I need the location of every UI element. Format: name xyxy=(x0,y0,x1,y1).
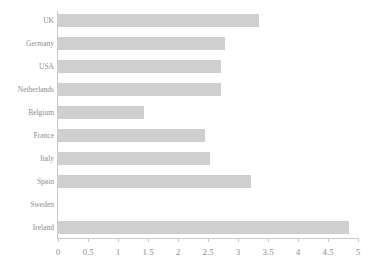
x-axis-tick-mark xyxy=(148,238,149,242)
x-axis-tick-label: 4 xyxy=(286,246,310,258)
bar xyxy=(58,14,259,27)
x-axis-tick-mark xyxy=(298,238,299,242)
x-axis-tick-mark xyxy=(268,238,269,242)
x-axis-tick-label: 1 xyxy=(106,246,130,258)
x-axis-tick-mark xyxy=(178,238,179,242)
bar-row: France xyxy=(0,129,372,152)
x-axis-tick-mark xyxy=(88,238,89,242)
bar-row: Germany xyxy=(0,37,372,60)
bar-row: Netherlands xyxy=(0,83,372,106)
x-axis-tick-label: 3 xyxy=(226,246,250,258)
bar-row: Sweden xyxy=(0,198,372,221)
bar-category-label: Ireland xyxy=(0,221,54,234)
x-axis-tick-mark xyxy=(328,238,329,242)
bar-category-label: Netherlands xyxy=(0,83,54,96)
bar xyxy=(58,106,144,119)
bar xyxy=(58,60,221,73)
bar-category-label: Belgium xyxy=(0,106,54,119)
bar xyxy=(58,152,210,165)
bar xyxy=(58,221,349,234)
x-axis-tick-label: 3.5 xyxy=(256,246,280,258)
x-axis-tick-label: 2.5 xyxy=(196,246,220,258)
x-axis-tick-label: 5 xyxy=(346,246,370,258)
bar-row: Italy xyxy=(0,152,372,175)
bar-row: Ireland xyxy=(0,221,372,244)
bar-row: Belgium xyxy=(0,106,372,129)
bar xyxy=(58,129,205,142)
bar-category-label: France xyxy=(0,129,54,142)
x-axis-tick-label: 4.5 xyxy=(316,246,340,258)
x-axis-tick-label: 1.5 xyxy=(136,246,160,258)
bar-chart: UKGermanyUSANetherlandsBelgiumFranceItal… xyxy=(0,0,372,272)
bar xyxy=(58,175,251,188)
x-axis-tick-mark xyxy=(118,238,119,242)
x-axis-tick-label: 2 xyxy=(166,246,190,258)
bar xyxy=(58,37,225,50)
x-axis-tick-label: 0.5 xyxy=(76,246,100,258)
x-axis-tick-mark xyxy=(208,238,209,242)
x-axis-tick-mark xyxy=(238,238,239,242)
bar-category-label: Sweden xyxy=(0,198,54,211)
bar-category-label: Italy xyxy=(0,152,54,165)
bar-category-label: Spain xyxy=(0,175,54,188)
bar-category-label: Germany xyxy=(0,37,54,50)
x-axis-tick-label: 0 xyxy=(46,246,70,258)
bar-category-label: USA xyxy=(0,60,54,73)
bar-row: USA xyxy=(0,60,372,83)
x-axis-tick-mark xyxy=(358,238,359,242)
x-axis-tick-mark xyxy=(58,238,59,242)
bar-category-label: UK xyxy=(0,14,54,27)
bar-row: UK xyxy=(0,14,372,37)
bar xyxy=(58,83,221,96)
bar-row: Spain xyxy=(0,175,372,198)
